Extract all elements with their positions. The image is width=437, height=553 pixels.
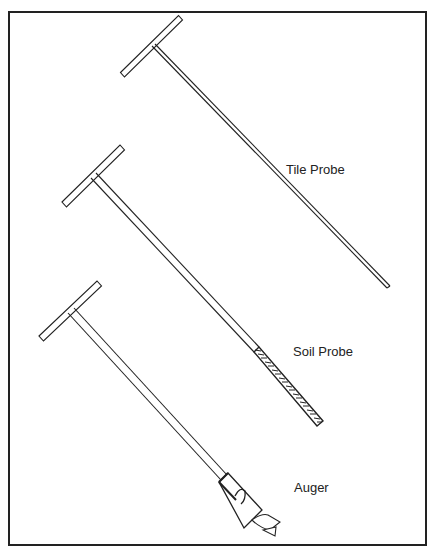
soil-probe-handle <box>62 145 125 207</box>
tile-probe-label: Tile Probe <box>286 162 345 177</box>
tile-probe-drawing <box>121 16 391 289</box>
auger-handle <box>39 281 102 341</box>
soil-probe-label: Soil Probe <box>293 344 353 359</box>
tools-illustration <box>0 0 437 553</box>
auger-tip <box>252 515 280 536</box>
auger-label: Auger <box>294 480 329 495</box>
auger-drawing <box>39 281 280 536</box>
